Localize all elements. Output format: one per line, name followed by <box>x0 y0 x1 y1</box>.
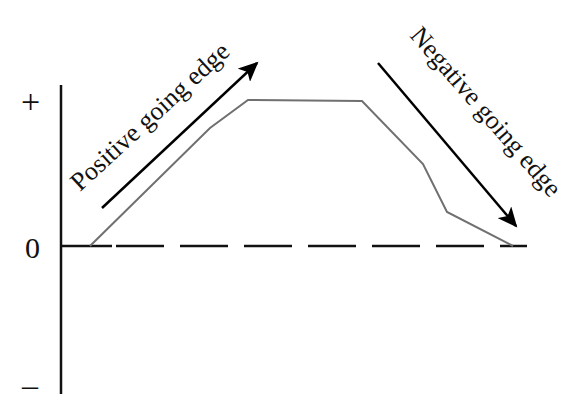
edge-diagram: + 0 – Positive going edge Negative going… <box>0 0 578 412</box>
minus-label: – <box>21 367 39 403</box>
plus-label: + <box>21 83 40 120</box>
positive-edge-label: Positive going edge <box>64 36 235 196</box>
zero-label: 0 <box>25 231 40 264</box>
